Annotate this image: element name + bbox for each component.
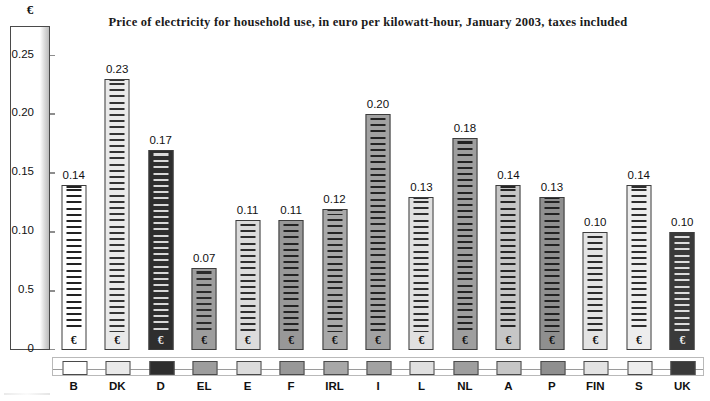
bar-slot: €0.13 — [400, 26, 443, 350]
euro-icon: € — [540, 332, 563, 348]
y-axis-gradient — [40, 27, 49, 349]
bar-texture — [414, 198, 429, 332]
bar-texture — [457, 139, 472, 332]
euro-icon: € — [497, 332, 520, 348]
bar-e[interactable]: € — [235, 220, 260, 350]
legend-swatch-fin[interactable] — [584, 361, 609, 375]
euro-icon: € — [366, 332, 389, 348]
bar-texture — [66, 186, 81, 332]
y-axis-box — [10, 26, 50, 350]
bar-texture — [284, 221, 299, 332]
legend-swatch-p[interactable] — [540, 361, 565, 375]
bar-slot: €0.17 — [139, 26, 182, 350]
legend-swatch-uk[interactable] — [671, 361, 696, 375]
bottom-edge-artifact — [4, 393, 50, 395]
bar-slot: €0.18 — [443, 26, 486, 350]
legend-swatch-b[interactable] — [62, 361, 87, 375]
y-axis-tick-label: 0.15 — [0, 165, 34, 177]
bar-value-label: 0.20 — [356, 98, 400, 110]
bar-value-label: 0.14 — [486, 169, 530, 181]
bar-slot: €0.13 — [530, 26, 573, 350]
bar-texture — [153, 151, 168, 332]
bar-slot: €0.20 — [356, 26, 399, 350]
bar-el[interactable]: € — [192, 268, 217, 350]
legend-swatch-irl[interactable] — [323, 361, 348, 375]
euro-icon: € — [627, 332, 650, 348]
bar-value-label: 0.14 — [52, 169, 96, 181]
euro-icon: € — [149, 332, 172, 348]
bar-slot: €0.14 — [617, 26, 660, 350]
bar-texture — [501, 186, 516, 332]
bar-texture — [327, 210, 342, 332]
euro-icon: € — [323, 332, 346, 348]
bar-d[interactable]: € — [148, 150, 173, 350]
bar-value-label: 0.14 — [617, 169, 661, 181]
y-axis-tick-label: 0.10 — [0, 224, 34, 236]
legend-swatch-i[interactable] — [367, 361, 392, 375]
bar-slot: €0.23 — [95, 26, 138, 350]
legend-strip — [52, 357, 704, 376]
legend-swatch-d[interactable] — [149, 361, 174, 375]
euro-icon: € — [410, 332, 433, 348]
bar-texture — [110, 80, 125, 332]
bar-value-label: 0.11 — [269, 204, 313, 216]
y-axis-tick-label: 0.5 — [0, 283, 34, 295]
legend-swatch-nl[interactable] — [453, 361, 478, 375]
bar-p[interactable]: € — [539, 197, 564, 350]
bar-f[interactable]: € — [279, 220, 304, 350]
bar-texture — [588, 233, 603, 332]
bar-texture — [544, 198, 559, 332]
bar-slot: €0.10 — [661, 26, 704, 350]
bar-fin[interactable]: € — [583, 232, 608, 350]
bar-l[interactable]: € — [409, 197, 434, 350]
legend-swatch-f[interactable] — [280, 361, 305, 375]
euro-icon: € — [62, 332, 85, 348]
bar-texture — [197, 269, 212, 332]
euro-icon: € — [671, 332, 694, 348]
bar-a[interactable]: € — [496, 185, 521, 350]
bar-slot: €0.10 — [574, 26, 617, 350]
y-axis-tick-label: 0 — [0, 342, 34, 354]
bar-texture — [240, 221, 255, 332]
legend-swatch-dk[interactable] — [106, 361, 131, 375]
euro-icon: € — [453, 332, 476, 348]
bar-slot: €0.11 — [226, 26, 269, 350]
category-label-uk: UK — [657, 380, 707, 392]
euro-icon: € — [584, 332, 607, 348]
bar-slot: €0.14 — [487, 26, 530, 350]
bar-nl[interactable]: € — [452, 138, 477, 350]
legend-swatch-l[interactable] — [410, 361, 435, 375]
legend-swatch-s[interactable] — [627, 361, 652, 375]
bar-i[interactable]: € — [365, 114, 390, 350]
legend-swatch-e[interactable] — [236, 361, 261, 375]
bar-s[interactable]: € — [626, 185, 651, 350]
bar-value-label: 0.13 — [530, 181, 574, 193]
bar-value-label: 0.12 — [313, 193, 357, 205]
y-axis-tick-label: 0.20 — [0, 106, 34, 118]
euro-icon: € — [280, 332, 303, 348]
bar-irl[interactable]: € — [322, 209, 347, 350]
bar-value-label: 0.13 — [399, 181, 443, 193]
bar-texture — [675, 233, 690, 332]
y-axis-unit-label: € — [12, 2, 48, 18]
euro-icon: € — [106, 332, 129, 348]
bar-uk[interactable]: € — [670, 232, 695, 350]
bar-value-label: 0.07 — [182, 252, 226, 264]
bar-texture — [631, 186, 646, 332]
bar-value-label: 0.11 — [226, 204, 270, 216]
euro-icon: € — [236, 332, 259, 348]
bar-slot: €0.11 — [269, 26, 312, 350]
legend-swatch-el[interactable] — [193, 361, 218, 375]
bar-texture — [370, 115, 385, 332]
legend-swatch-a[interactable] — [497, 361, 522, 375]
bar-value-label: 0.10 — [573, 216, 617, 228]
bar-value-label: 0.10 — [660, 216, 704, 228]
bar-value-label: 0.17 — [139, 134, 183, 146]
plot-area: €0.14€0.23€0.17€0.07€0.11€0.11€0.12€0.20… — [52, 26, 704, 350]
bar-slot: €0.14 — [52, 26, 95, 350]
bar-value-label: 0.18 — [443, 122, 487, 134]
bar-b[interactable]: € — [61, 185, 86, 350]
bar-dk[interactable]: € — [105, 79, 130, 350]
bar-value-label: 0.23 — [95, 63, 139, 75]
bar-slot: €0.12 — [313, 26, 356, 350]
